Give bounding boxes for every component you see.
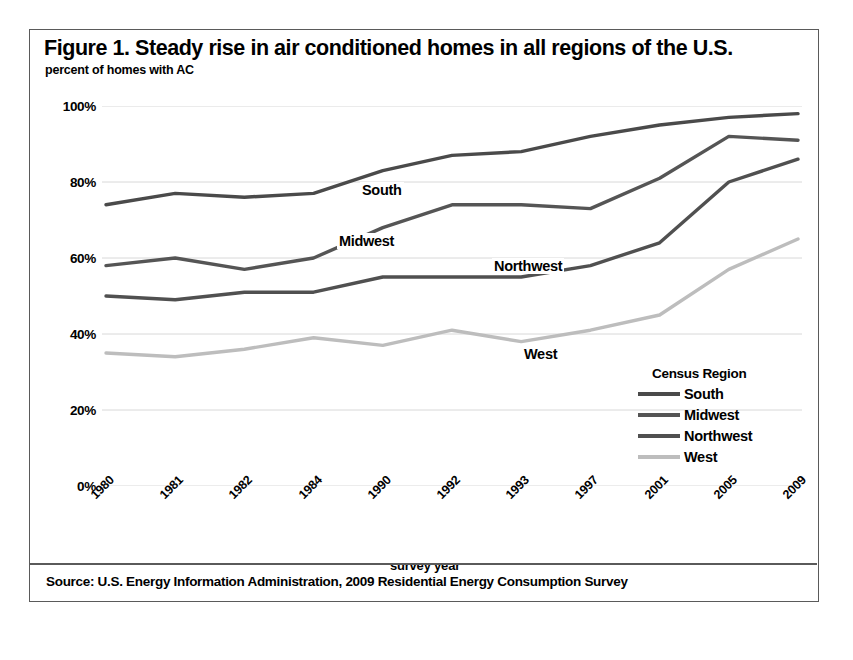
legend-item-west[interactable]: West — [638, 446, 798, 467]
legend-item-midwest[interactable]: Midwest — [638, 404, 798, 425]
legend-label: Midwest — [684, 407, 739, 423]
series-line-west — [106, 239, 798, 357]
y-tick-label: 80% — [46, 175, 96, 190]
series-line-northwest — [106, 159, 798, 300]
legend-swatch-icon — [638, 392, 680, 396]
legend-title: Census Region — [652, 366, 798, 381]
legend-rows: SouthMidwestNorthwestWest — [638, 383, 798, 467]
figure-subtitle: percent of homes with AC — [45, 63, 194, 77]
legend-swatch-icon — [638, 434, 680, 438]
series-annotation-midwest: Midwest — [337, 233, 396, 249]
x-axis: 1980198119821984199019921993199720012005… — [102, 492, 802, 552]
y-tick-label: 40% — [46, 327, 96, 342]
series-annotation-west: West — [522, 346, 559, 362]
legend-swatch-icon — [638, 455, 680, 459]
y-tick-label: 20% — [46, 403, 96, 418]
legend-swatch-icon — [638, 413, 680, 417]
legend-label: West — [684, 449, 717, 465]
y-axis: 0%20%40%60%80%100% — [38, 106, 96, 486]
legend: Census Region SouthMidwestNorthwestWest — [638, 366, 798, 467]
y-tick-label: 100% — [46, 99, 96, 114]
figure-container: Figure 1. Steady rise in air conditioned… — [29, 29, 819, 602]
series-annotation-northwest: Northwest — [492, 258, 564, 274]
legend-label: South — [684, 386, 724, 402]
y-tick-label: 60% — [46, 251, 96, 266]
footer-divider — [30, 563, 817, 565]
x-axis-title: survey year — [30, 558, 820, 573]
figure-title: Figure 1. Steady rise in air conditioned… — [44, 36, 804, 61]
source-note: Source: U.S. Energy Information Administ… — [46, 574, 628, 589]
legend-label: Northwest — [684, 428, 752, 444]
legend-item-northwest[interactable]: Northwest — [638, 425, 798, 446]
series-annotation-south: South — [360, 182, 404, 198]
legend-item-south[interactable]: South — [638, 383, 798, 404]
